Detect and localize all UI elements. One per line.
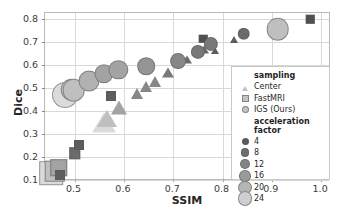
- legend-acceleration-group: 4812162024: [236, 136, 325, 205]
- y-tick-label: 0.7: [8, 35, 38, 46]
- data-point-square: [55, 170, 65, 180]
- legend-accel-4[interactable]: 4: [236, 136, 325, 148]
- circle-size-swatch-icon: [236, 191, 254, 206]
- legend-accel-label: 12: [254, 160, 264, 169]
- legend-item-triangle[interactable]: Center: [236, 81, 325, 93]
- circle-size-swatch-icon: [236, 148, 254, 157]
- y-tick: [42, 157, 45, 158]
- legend-item-label: FastMRI: [254, 94, 285, 103]
- legend-accel-label: 24: [254, 194, 264, 203]
- legend-accel-title: acceleration factor: [254, 117, 325, 135]
- y-tick-label: 0.2: [8, 150, 38, 161]
- legend-accel-label: 4: [254, 137, 259, 146]
- y-tick: [42, 42, 45, 43]
- legend-accel-8[interactable]: 8: [236, 147, 325, 159]
- legend-accel-12[interactable]: 12: [236, 159, 325, 171]
- legend-item-label: Center: [254, 82, 281, 91]
- data-point-circle: [237, 27, 250, 40]
- circle-size-swatch-icon: [236, 159, 254, 169]
- x-tick-label: 0.7: [165, 183, 180, 194]
- legend-item-square[interactable]: FastMRI: [236, 93, 325, 105]
- legend-accel-label: 20: [254, 183, 264, 192]
- square-swatch-icon: [236, 95, 254, 102]
- data-point-circle: [170, 53, 186, 69]
- circle-size-swatch-icon: [236, 138, 254, 145]
- legend-sampling-group: CenterFastMRIIGS (Ours): [236, 81, 325, 116]
- y-tick: [42, 19, 45, 20]
- data-point-square: [306, 15, 314, 23]
- data-point-square: [106, 91, 116, 101]
- y-axis-label: Dice: [12, 63, 25, 143]
- data-point-triangle: [149, 73, 161, 87]
- legend-accel-label: 8: [254, 148, 259, 157]
- x-tick-label: 0.5: [66, 183, 81, 194]
- circle-swatch-icon: [236, 106, 254, 113]
- data-point-circle: [266, 18, 289, 41]
- legend-accel-label: 16: [254, 171, 264, 180]
- x-tick-label: 0.6: [115, 183, 130, 194]
- x-gridline: [173, 13, 174, 179]
- x-gridline: [223, 13, 224, 179]
- y-tick: [42, 111, 45, 112]
- y-tick: [42, 88, 45, 89]
- x-gridline: [124, 13, 125, 179]
- y-tick-label: 0.1: [8, 173, 38, 184]
- legend-item-label: IGS (Ours): [254, 105, 295, 114]
- legend-item-circle[interactable]: IGS (Ours): [236, 104, 325, 116]
- scatter-chart-figure: 0.50.60.70.80.91.0 0.10.20.30.40.50.60.7…: [0, 0, 353, 218]
- legend-sampling-title: sampling: [254, 71, 325, 80]
- y-gridline: [45, 19, 329, 20]
- data-point-circle: [109, 60, 128, 79]
- x-tick-label: 0.8: [214, 183, 229, 194]
- y-tick: [42, 134, 45, 135]
- chart-legend: sampling CenterFastMRIIGS (Ours) acceler…: [231, 66, 330, 180]
- data-point-circle: [191, 45, 205, 59]
- data-point-square: [74, 140, 84, 150]
- y-gridline: [45, 42, 329, 43]
- triangle-swatch-icon: [236, 83, 254, 91]
- legend-accel-24[interactable]: 24: [236, 193, 325, 205]
- y-tick-label: 0.8: [8, 12, 38, 23]
- data-point-circle: [137, 57, 155, 75]
- y-tick: [42, 65, 45, 66]
